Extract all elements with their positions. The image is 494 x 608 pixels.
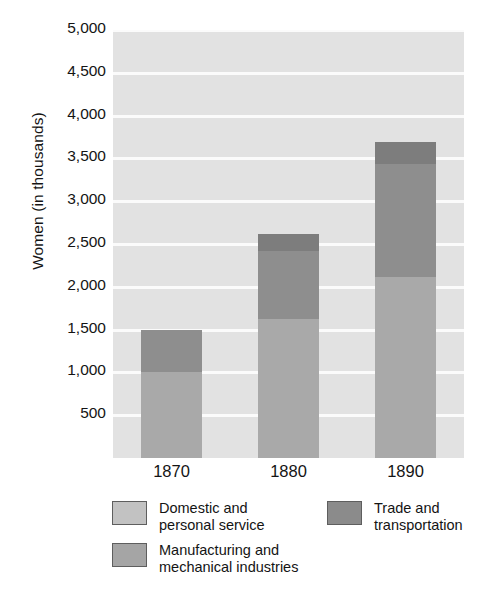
legend-label-manufacturing: Manufacturing and mechanical industries [159, 542, 298, 576]
swatch-trade-icon [327, 501, 362, 525]
bar-segment-domestic-1880[interactable] [258, 319, 319, 458]
gridline [113, 72, 464, 75]
y-tick-label: 500 [24, 404, 106, 422]
y-tick-label: 4,500 [24, 62, 106, 80]
legend-label-trade: Trade and transportation [374, 500, 463, 534]
bar-segment-domestic-1870[interactable] [141, 372, 202, 458]
chart-legend: Domestic and personal service Manufactur… [112, 500, 494, 590]
bar-segment-domestic-1890[interactable] [375, 277, 436, 458]
bar-1870[interactable] [141, 330, 202, 458]
y-tick-label: 1,000 [24, 361, 106, 379]
y-tick-label: 4,000 [24, 105, 106, 123]
legend-label-domestic: Domestic and personal service [159, 500, 265, 534]
legend-item-manufacturing[interactable]: Manufacturing and mechanical industries [112, 542, 298, 576]
x-tick-label-1890: 1890 [387, 462, 424, 481]
x-tick-label-1880: 1880 [270, 462, 307, 481]
gridline [113, 115, 464, 118]
stacked-bar-chart-figure: Women (in thousands) 5001,0001,5002,0002… [0, 0, 494, 608]
bar-segment-manufacturing-1890[interactable] [375, 164, 436, 276]
swatch-manufacturing-icon [112, 543, 147, 567]
legend-item-trade[interactable]: Trade and transportation [327, 500, 463, 534]
bar-1890[interactable] [375, 142, 436, 458]
y-tick-label: 3,500 [24, 147, 106, 165]
bar-1880[interactable] [258, 234, 319, 458]
swatch-domestic-icon [112, 501, 147, 525]
bar-segment-manufacturing-1870[interactable] [141, 330, 202, 372]
y-axis-tick-labels: 5001,0001,5002,0002,5003,0003,5004,0004,… [24, 28, 106, 458]
y-tick-label: 5,000 [24, 19, 106, 37]
bar-segment-trade-1880[interactable] [258, 234, 319, 251]
x-tick-label-1870: 1870 [153, 462, 190, 481]
plot-area [113, 30, 464, 458]
legend-item-domestic[interactable]: Domestic and personal service [112, 500, 265, 534]
bar-segment-trade-1890[interactable] [375, 142, 436, 164]
y-tick-label: 3,000 [24, 190, 106, 208]
y-tick-label: 2,500 [24, 233, 106, 251]
x-axis-tick-labels: 187018801890 [113, 462, 464, 488]
y-tick-label: 1,500 [24, 319, 106, 337]
gridline [113, 30, 464, 32]
bar-segment-manufacturing-1880[interactable] [258, 251, 319, 319]
y-tick-label: 2,000 [24, 276, 106, 294]
